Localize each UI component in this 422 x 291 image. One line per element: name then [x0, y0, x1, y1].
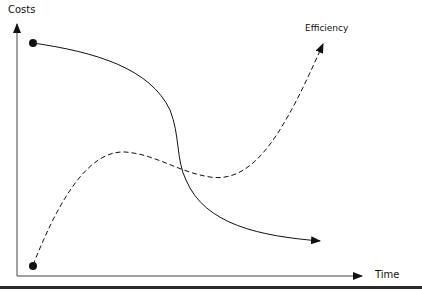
efficiency-curve [33, 44, 323, 265]
costs-curve [33, 43, 320, 241]
bottom-divider [0, 286, 422, 289]
y-axis-label: Costs [8, 4, 35, 15]
efficiency-start-dot [29, 262, 37, 270]
costs-start-dot [29, 39, 37, 47]
efficiency-label: Efficiency [305, 23, 348, 33]
chart-canvas [0, 0, 422, 291]
x-axis-label: Time [375, 269, 399, 280]
